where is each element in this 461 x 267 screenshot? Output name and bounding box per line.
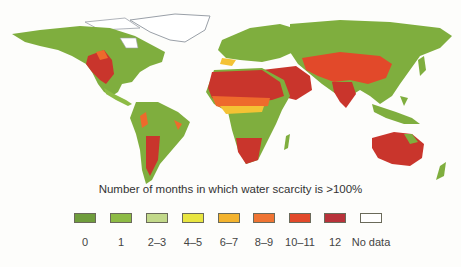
legend-label-8: No data xyxy=(346,236,396,248)
legend-label-1: 1 xyxy=(101,236,141,248)
legend-swatch-5 xyxy=(253,213,275,223)
legend-label-6: 10–11 xyxy=(280,236,320,248)
world-water-scarcity-map xyxy=(0,0,461,200)
legend-label-4: 6–7 xyxy=(209,236,249,248)
legend-label-0: 0 xyxy=(65,236,105,248)
legend-swatch-1 xyxy=(110,213,132,223)
legend-swatch-6 xyxy=(289,213,311,223)
legend-label-2: 2–3 xyxy=(137,236,177,248)
legend-title: Number of months in which water scarcity… xyxy=(0,183,461,195)
legend-swatch-7 xyxy=(324,213,346,223)
legend-swatch-0 xyxy=(74,213,96,223)
legend-swatch-3 xyxy=(182,213,204,223)
legend-label-5: 8–9 xyxy=(244,236,284,248)
legend-label-3: 4–5 xyxy=(173,236,213,248)
legend-swatch-2 xyxy=(146,213,168,223)
legend-swatch-4 xyxy=(218,213,240,223)
legend-swatch-8 xyxy=(360,213,382,223)
